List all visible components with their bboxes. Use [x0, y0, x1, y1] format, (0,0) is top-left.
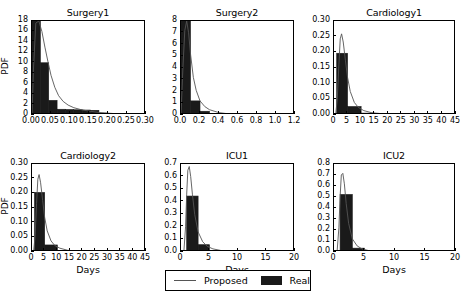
x-tickmark	[455, 248, 456, 251]
x-tickmark	[199, 111, 200, 114]
y-tickmark	[180, 163, 183, 164]
y-tick-label: 0.15	[312, 63, 330, 71]
legend: ProposedReal	[165, 270, 311, 291]
x-tickmark	[126, 111, 127, 114]
y-tick-label: 10	[18, 58, 28, 66]
x-tick-label: 20	[289, 254, 299, 262]
plot-area	[334, 21, 455, 114]
y-tickmark	[180, 188, 183, 189]
y-tickmark	[180, 20, 183, 21]
y-tick-label: 4	[172, 63, 177, 71]
x-tick-label: 5	[344, 117, 349, 125]
x-tick-label: 20	[77, 254, 87, 262]
x-tickmark	[455, 111, 456, 114]
x-tick-label: 35	[115, 254, 125, 262]
x-tick-label: 15	[369, 117, 379, 125]
subplot-surgery2: Surgery20123456780.00.20.40.60.81.01.2	[180, 20, 294, 114]
x-tick-label: 5	[361, 254, 366, 262]
y-tickmark	[31, 30, 34, 31]
x-tick-label: 30	[102, 254, 112, 262]
y-axis-label: PDF	[0, 46, 10, 86]
y-tickmark	[180, 175, 183, 176]
y-tick-label: 0.2	[317, 225, 330, 233]
x-axis-label: Days	[333, 264, 455, 275]
x-tick-label: 15	[64, 254, 74, 262]
axes-frame	[31, 163, 145, 251]
x-tickmark	[50, 111, 51, 114]
x-tick-label: 0.6	[231, 117, 244, 125]
y-tick-label: 0.6	[317, 181, 330, 189]
axes-frame	[180, 20, 294, 114]
x-tickmark	[414, 111, 415, 114]
y-tickmark	[31, 93, 34, 94]
y-tick-label: 16	[18, 26, 28, 34]
x-tickmark	[107, 111, 108, 114]
x-tickmark	[56, 248, 57, 251]
x-tick-label: 40	[127, 254, 137, 262]
y-tick-label: 0.7	[317, 170, 330, 178]
density-line-proposed	[34, 175, 145, 251]
y-tickmark	[333, 174, 336, 175]
histogram-bar	[210, 250, 221, 251]
y-tick-label: 4	[23, 89, 28, 97]
y-tickmark	[180, 43, 183, 44]
x-tickmark	[145, 111, 146, 114]
x-tickmark	[387, 111, 388, 114]
legend-entry-proposed: Proposed	[174, 275, 248, 286]
y-tickmark	[180, 200, 183, 201]
x-tickmark	[218, 111, 219, 114]
histogram-bar	[74, 110, 82, 114]
x-tick-label: 0.25	[117, 117, 135, 125]
y-tickmark	[180, 78, 183, 79]
y-tick-label: 12	[18, 47, 28, 55]
x-tick-label: 0.05	[41, 117, 59, 125]
subplot-icu2: ICU20.00.10.20.30.40.50.60.70.805101520D…	[333, 163, 455, 251]
y-tick-label: 2	[23, 100, 28, 108]
y-tick-label: 0.00	[312, 110, 330, 118]
x-tickmark	[400, 111, 401, 114]
subplot-title: Cardiology1	[333, 7, 455, 18]
x-tickmark	[237, 248, 238, 251]
x-tick-label: 0	[177, 254, 182, 262]
y-tick-label: 0.0	[317, 247, 330, 255]
y-tickmark	[31, 236, 34, 237]
x-tick-label: 0.30	[136, 117, 154, 125]
y-tickmark	[333, 163, 336, 164]
y-tickmark	[333, 98, 336, 99]
x-tick-label: 15	[419, 254, 429, 262]
y-tick-label: 0.00	[10, 247, 28, 255]
x-tickmark	[294, 248, 295, 251]
x-tick-label: 40	[436, 117, 446, 125]
x-tick-label: 0.10	[60, 117, 78, 125]
x-tickmark	[132, 248, 133, 251]
y-tick-label: 7	[172, 28, 177, 36]
density-line-proposed	[337, 173, 455, 251]
axes-frame	[333, 20, 455, 114]
y-tickmark	[333, 35, 336, 36]
subplot-cardiology2: Cardiology20.000.050.100.150.200.250.300…	[31, 163, 145, 251]
histogram-bar	[65, 110, 73, 114]
x-tickmark	[424, 248, 425, 251]
x-tickmark	[81, 248, 82, 251]
y-tick-label: 0.10	[10, 218, 28, 226]
plot-area	[32, 164, 145, 251]
y-tick-label: 14	[18, 37, 28, 45]
y-tick-label: 0.7	[164, 159, 177, 167]
x-tickmark	[346, 111, 347, 114]
x-tick-label: 0	[330, 254, 335, 262]
legend-entry-real: Real	[261, 275, 310, 286]
x-tickmark	[119, 248, 120, 251]
y-tick-label: 0.4	[317, 203, 330, 211]
y-tick-label: 0.3	[164, 209, 177, 217]
legend-label-real: Real	[290, 275, 310, 286]
x-tick-label: 0.15	[79, 117, 97, 125]
x-tick-label: 5	[206, 254, 211, 262]
x-tickmark	[373, 111, 374, 114]
y-tick-label: 0.5	[317, 192, 330, 200]
y-tick-label: 6	[172, 40, 177, 48]
x-tickmark	[31, 111, 32, 114]
x-tick-label: 5	[41, 254, 46, 262]
x-tickmark	[180, 111, 181, 114]
y-tick-label: 0.25	[312, 32, 330, 40]
y-tick-label: 0.20	[312, 47, 330, 55]
